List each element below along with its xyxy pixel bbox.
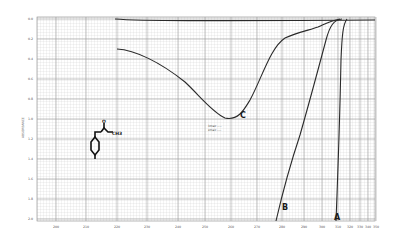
- x-tick-label: 230: [144, 225, 150, 229]
- y-tick-label: 1.8: [28, 197, 33, 201]
- x-tick-label: 220: [114, 225, 120, 229]
- curve-b-label: B: [282, 203, 288, 212]
- x-tick-label: 200: [53, 225, 59, 229]
- y-tick-label: 0.6: [28, 77, 33, 81]
- x-tick-label: 300: [319, 225, 325, 229]
- x-tick-label: 210: [83, 225, 89, 229]
- y-axis-title: ABSORBANCE: [21, 117, 25, 138]
- y-tick-label: 1.4: [28, 157, 33, 161]
- x-tick-label: 270: [254, 225, 260, 229]
- x-axis-ticks: 2002102202302402502602702802903003103203…: [53, 225, 379, 229]
- x-tick-label: 250: [202, 225, 208, 229]
- y-tick-label: 0.0: [28, 17, 33, 21]
- x-tick-label: 320: [347, 225, 353, 229]
- y-tick-label: 0.4: [28, 57, 33, 61]
- curve-c-label: C: [240, 111, 246, 120]
- curve-a-label: A: [334, 213, 341, 222]
- struct-oxygen: O: [102, 119, 106, 124]
- y-tick-label: 1.6: [28, 177, 33, 181]
- x-tick-label: 340: [365, 225, 371, 229]
- y-tick-label: 0.2: [28, 37, 33, 41]
- x-tick-label: 260: [228, 225, 234, 229]
- y-axis-ticks: 0.00.20.40.60.81.01.21.41.61.82.0: [28, 17, 33, 221]
- x-tick-label: 350: [373, 225, 379, 229]
- x-tick-label: 280: [279, 225, 285, 229]
- x-tick-label: 310: [335, 225, 341, 229]
- y-tick-label: 0.8: [28, 97, 33, 101]
- y-tick-label: 1.2: [28, 137, 33, 141]
- x-tick-label: 330: [357, 225, 363, 229]
- y-tick-label: 1.0: [28, 117, 33, 121]
- spectrum-chart: 0.00.20.40.60.81.01.21.41.61.82.0 200210…: [0, 0, 395, 238]
- y-tick-label: 2.0: [28, 217, 33, 221]
- x-tick-label: 240: [175, 225, 181, 229]
- struct-methyl: CH3: [112, 131, 122, 136]
- plot-grid: [37, 17, 376, 221]
- epsilon-max-annotation: εmax ----: [208, 128, 221, 132]
- x-tick-label: 290: [301, 225, 307, 229]
